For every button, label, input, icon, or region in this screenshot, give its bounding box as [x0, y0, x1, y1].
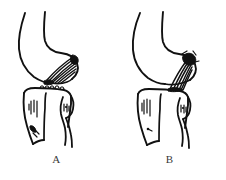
- panel-label-b: B: [113, 152, 226, 166]
- panel-label-a: A: [0, 152, 113, 166]
- fibula-medial-cortex-b: [178, 98, 183, 146]
- knee-illustration-b: [113, 0, 226, 152]
- bone-avulsion-fragment-b: [183, 53, 196, 65]
- fibula-shading-b: [181, 105, 186, 113]
- tibia-anterior-ridge-b: [159, 94, 161, 141]
- tibia-shading-a: [29, 100, 37, 117]
- tibia-distal-marking-a: [30, 126, 36, 132]
- figure-root: A: [0, 0, 226, 180]
- tibia-lateral-cortex-b: [147, 141, 159, 145]
- ligament-femoral-insertion-a: [71, 55, 79, 64]
- tibia-anterior-ridge-a: [44, 93, 46, 140]
- tibia-lateral-cortex-a: [33, 140, 44, 144]
- tibia-medial-cortex-b: [138, 94, 147, 145]
- fibula-medial-cortex-a: [61, 97, 66, 145]
- femur-medial-cortex-a: [19, 13, 51, 83]
- tibia-shading-b: [142, 99, 150, 116]
- panel-b: B: [113, 0, 226, 180]
- fibula-speck-a: [65, 106, 67, 108]
- panel-a: A: [0, 0, 113, 180]
- fibula-shading-a: [64, 104, 69, 112]
- fibula-speck-b: [182, 107, 184, 109]
- knee-illustration-a: [0, 0, 113, 152]
- femur-medial-cortex-b: [133, 13, 165, 84]
- tibia-medial-cortex-a: [24, 93, 33, 144]
